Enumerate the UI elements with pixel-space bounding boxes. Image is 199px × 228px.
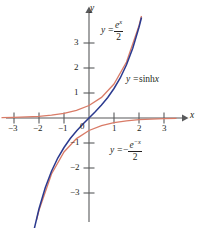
y-axis-label: y [90,4,94,14]
exp-pos-numerator: ex [114,18,123,32]
x-axis-label: x [190,111,194,121]
exp-neg-denominator: 2 [128,152,141,163]
sinh-lhs: y = [126,74,139,84]
x-tick-label-1: 1 [112,124,117,133]
x-axis-arrow [182,114,189,121]
y-tick-label--3: −3 [70,188,80,197]
y-tick-label-3: 3 [74,38,79,47]
curve-label-sinh: y =sinhx [126,75,159,85]
origin-label: 0 [80,122,85,131]
curve-label-exp-positive: y =ex2 [101,18,123,43]
exp-neg-exponent: −x [134,138,141,145]
exp-neg-lhs: y = [110,145,123,155]
curve-label-exp-negative: y =−e−x2 [110,138,142,163]
x-tick-label-3: 3 [162,124,167,133]
plot-canvas [0,0,199,228]
exp-pos-exponent: x [119,18,122,25]
exp-pos-fraction: ex2 [114,18,123,43]
sinh-arg: x [155,74,159,84]
y-tick-label--2: −2 [70,163,80,172]
y-tick-label-2: 2 [74,63,79,72]
y-tick-label--1: −1 [70,138,80,147]
curve-exp-negative [37,118,177,220]
exp-neg-numerator: e−x [128,138,141,152]
sinh-func: sinh [139,74,155,84]
x-tick-label--3: −3 [8,124,18,133]
exp-neg-fraction: e−x2 [128,138,141,163]
x-tick-label--1: −1 [58,124,68,133]
exp-pos-denominator: 2 [114,32,123,43]
sinh-graph-figure: −3 −2 −1 1 2 3 0 3 2 1 −1 −2 −3 y x y =e… [0,0,199,228]
x-tick-label--2: −2 [33,124,43,133]
x-tick-label-2: 2 [137,124,142,133]
exp-pos-lhs: y = [101,25,114,35]
y-tick-label-1: 1 [74,88,79,97]
